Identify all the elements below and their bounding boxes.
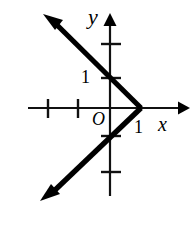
x-axis-label: x bbox=[158, 114, 167, 134]
y-axis-label: y bbox=[88, 6, 98, 28]
x-axis-arrowhead-icon bbox=[178, 102, 190, 115]
graph-ray-upper-left bbox=[56, 24, 141, 108]
y-axis bbox=[101, 13, 121, 196]
origin-label: O bbox=[92, 110, 105, 128]
y-axis-arrowhead-icon bbox=[104, 13, 117, 26]
y-axis-tick-label-1: 1 bbox=[81, 68, 90, 86]
graph-figure: y x O 1 1 bbox=[0, 0, 193, 226]
x-axis-tick-label-1: 1 bbox=[134, 118, 143, 136]
